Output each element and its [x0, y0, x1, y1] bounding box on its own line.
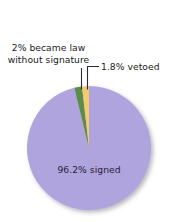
pie-label-became-law: 2% became law without signature [0, 42, 97, 65]
pie-label-vetoed: 1.8% vetoed [101, 61, 160, 73]
pie-chart-figure: 2% became law without signature 1.8% vet… [0, 0, 175, 222]
pie-slice-signed [27, 86, 151, 210]
pie-label-became-law-line1: 2% became law [12, 42, 86, 53]
pie-label-became-law-line2: without signature [0, 54, 97, 66]
pie-chart-canvas [0, 0, 175, 222]
pie-slices-group [27, 86, 151, 210]
pie-label-signed: 96.2% signed [29, 164, 149, 176]
